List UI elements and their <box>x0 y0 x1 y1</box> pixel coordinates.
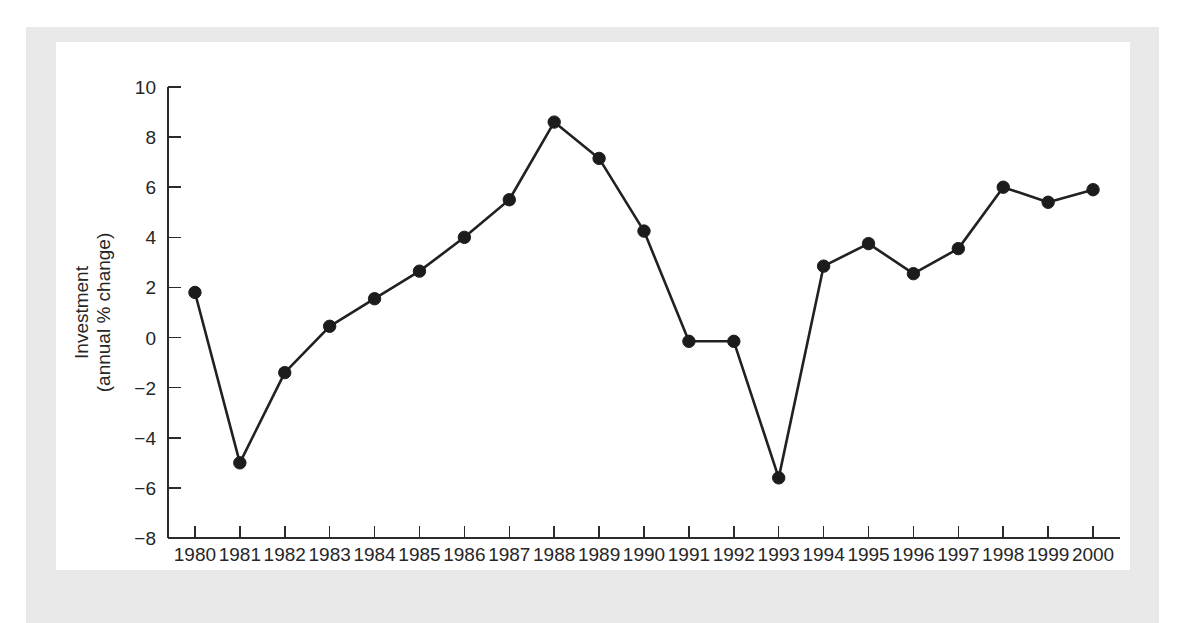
x-axis: 1980198119821983198419851986198719881989… <box>168 526 1120 565</box>
y-axis-tick-label: −4 <box>134 428 156 449</box>
data-point-marker <box>817 260 829 272</box>
y-axis-title-line2: (annual % change) <box>93 233 114 393</box>
x-axis-tick-label: 1996 <box>892 544 934 565</box>
data-point-marker <box>997 181 1009 193</box>
x-axis-tick-label: 1987 <box>488 544 530 565</box>
data-point-marker <box>1042 196 1054 208</box>
y-axis: 1086420−2−4−6−8 <box>134 77 181 549</box>
data-point-marker <box>683 335 695 347</box>
x-axis-tick-label: 1992 <box>713 544 755 565</box>
data-point-marker <box>323 320 335 332</box>
data-point-marker <box>458 231 470 243</box>
y-axis-tick-label: −8 <box>134 528 156 549</box>
data-point-marker <box>548 116 560 128</box>
x-axis-tick-label: 1990 <box>623 544 665 565</box>
x-axis-tick-label: 1985 <box>398 544 440 565</box>
data-point-marker <box>279 366 291 378</box>
x-axis-tick-label: 1999 <box>1027 544 1069 565</box>
y-axis-tick-label: 6 <box>145 177 156 198</box>
data-point-marker <box>189 286 201 298</box>
x-axis-tick-label: 1995 <box>847 544 889 565</box>
data-point-marker <box>503 194 515 206</box>
x-axis-tick-label: 1989 <box>578 544 620 565</box>
y-axis-tick-label: −2 <box>134 378 156 399</box>
x-axis-tick-label: 1984 <box>353 544 396 565</box>
data-point-marker <box>952 242 964 254</box>
x-axis-tick-label: 1982 <box>264 544 306 565</box>
x-axis-tick-label: 1997 <box>937 544 979 565</box>
data-point-marker <box>862 237 874 249</box>
x-axis-tick-label: 1981 <box>219 544 261 565</box>
x-axis-tick-label: 1986 <box>443 544 485 565</box>
axis-labels: Investment(annual % change) <box>71 233 114 393</box>
data-point-marker <box>773 472 785 484</box>
series-line <box>195 122 1093 478</box>
figure-container: 1086420−2−4−6−8 198019811982198319841985… <box>0 0 1185 623</box>
data-series <box>189 116 1100 484</box>
data-point-marker <box>1087 184 1099 196</box>
data-point-marker <box>638 225 650 237</box>
data-point-marker <box>368 293 380 305</box>
x-axis-tick-label: 1993 <box>758 544 800 565</box>
x-axis-tick-label: 1988 <box>533 544 575 565</box>
data-point-marker <box>593 152 605 164</box>
y-axis-title-line1: Investment <box>71 265 92 359</box>
x-axis-tick-label: 2000 <box>1072 544 1114 565</box>
data-point-marker <box>728 335 740 347</box>
x-axis-tick-label: 1998 <box>982 544 1024 565</box>
y-axis-tick-label: 10 <box>135 77 156 98</box>
data-point-marker <box>907 267 919 279</box>
y-axis-tick-label: −6 <box>134 478 156 499</box>
x-axis-tick-label: 1983 <box>309 544 351 565</box>
line-chart: 1086420−2−4−6−8 198019811982198319841985… <box>0 0 1185 623</box>
x-axis-tick-label: 1991 <box>668 544 710 565</box>
data-point-marker <box>413 265 425 277</box>
y-axis-tick-label: 0 <box>145 328 156 349</box>
data-point-marker <box>234 457 246 469</box>
x-axis-tick-label: 1994 <box>802 544 845 565</box>
y-axis-tick-label: 2 <box>145 277 156 298</box>
y-axis-tick-label: 4 <box>145 227 156 248</box>
x-axis-tick-label: 1980 <box>174 544 216 565</box>
y-axis-tick-label: 8 <box>145 127 156 148</box>
